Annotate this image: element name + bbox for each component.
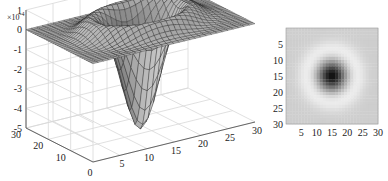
svg-text:30: 30 [373,127,383,138]
svg-text:10: 10 [144,152,154,163]
svg-text:10: 10 [56,152,66,163]
svg-text:10: 10 [273,55,283,66]
svg-text:20: 20 [342,127,352,138]
svg-text:20: 20 [273,87,283,98]
svg-text:-3: -3 [14,83,22,94]
surface-mesh [26,0,255,129]
svg-text:15: 15 [171,145,181,156]
svg-text:30: 30 [252,125,262,136]
svg-text:0: 0 [88,167,93,178]
z-exponent-label: ×10-4 [7,11,25,22]
svg-text:5: 5 [299,127,304,138]
svg-text:15: 15 [327,127,337,138]
svg-text:20: 20 [198,138,208,149]
surface-plot: 10-1-2-3-4-5051015202530102030 ×10-4 [0,0,270,181]
svg-text:-2: -2 [14,64,22,75]
svg-text:30: 30 [11,129,21,140]
svg-text:-1: -1 [14,44,22,55]
heatmap-plot: 5101520253051015202530 [262,20,388,140]
svg-text:5: 5 [120,158,125,169]
svg-text:15: 15 [273,71,283,82]
svg-text:0: 0 [17,24,22,35]
svg-text:10: 10 [312,127,322,138]
svg-text:25: 25 [225,132,235,143]
svg-text:30: 30 [273,119,283,130]
svg-text:5: 5 [278,39,283,50]
svg-text:25: 25 [273,103,283,114]
svg-text:25: 25 [358,127,368,138]
svg-text:20: 20 [33,140,43,151]
heatmap-cells [286,28,378,124]
svg-text:-4: -4 [14,103,22,114]
